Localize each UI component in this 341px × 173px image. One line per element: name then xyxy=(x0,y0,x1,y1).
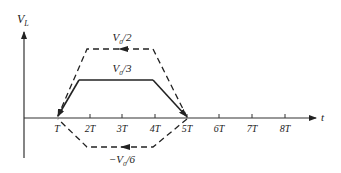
tick-label-3T: 3T xyxy=(116,123,129,134)
tick-label-8T: 8T xyxy=(280,123,292,134)
tick-label-2T: 2T xyxy=(85,123,97,134)
label-v0-over-2: V0/2 xyxy=(113,31,132,46)
y-axis-label: VL xyxy=(17,12,29,28)
tick-label-7T: 7T xyxy=(247,123,259,134)
voltage-time-diagram: VL t T 2T 3T 4T 5T 6T 7T 8T V0/2 xyxy=(0,0,341,173)
tick-label-4T: 4T xyxy=(150,123,162,134)
tick-label-6T: 6T xyxy=(214,123,226,134)
tick-label-T: T xyxy=(54,123,61,134)
left-arrow-icon xyxy=(120,144,130,150)
y-axis: VL xyxy=(17,12,29,158)
x-axis-label: t xyxy=(321,111,325,123)
left-arrow-icon xyxy=(118,46,128,52)
label-neg-v0-over-6: −V0/6 xyxy=(109,153,136,168)
tick-label-5T: 5T xyxy=(182,123,194,134)
label-v0-over-3: V0/3 xyxy=(113,62,132,77)
x-tick-labels: T 2T 3T 4T 5T 6T 7T 8T xyxy=(54,123,292,134)
